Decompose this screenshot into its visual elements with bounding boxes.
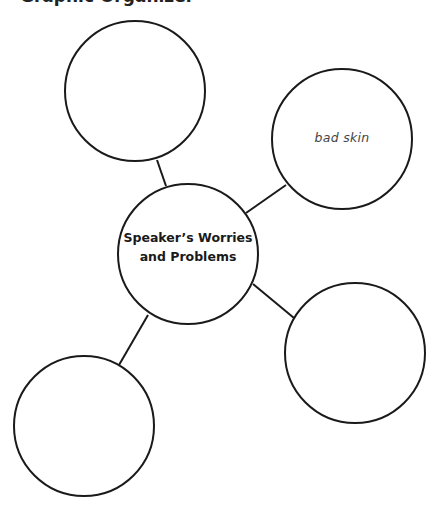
answer-area-bottom-right[interactable] — [295, 293, 415, 413]
answer-area-top-left[interactable] — [75, 31, 195, 151]
center-label: Speaker’s Worries and Problems — [123, 228, 253, 266]
connector-bottom-right — [253, 284, 294, 318]
connector-bottom-left — [119, 315, 148, 365]
connector-top-right — [246, 185, 286, 213]
connector-top-left — [157, 160, 166, 186]
answer-area-bottom-left[interactable] — [24, 366, 144, 486]
node-label-top-right: bad skin — [282, 130, 402, 145]
